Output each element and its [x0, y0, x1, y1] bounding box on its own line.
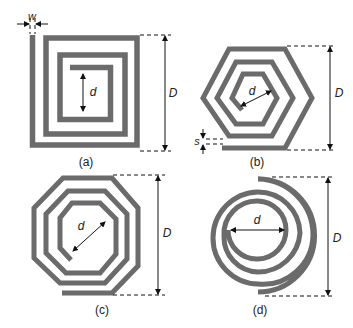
label-w: w: [28, 10, 37, 22]
caption-a: (a): [79, 155, 94, 169]
label-D: D: [333, 231, 342, 245]
label-D: D: [163, 226, 172, 240]
label-d: d: [90, 85, 97, 99]
panel-d-circular-spiral: d D (d): [213, 177, 342, 317]
caption-c: (c): [95, 303, 109, 317]
caption-b: (b): [250, 155, 265, 169]
label-D: D: [169, 86, 178, 100]
spiral-inductor-diagram: w d D (a) s d D (b) d: [0, 0, 353, 328]
panel-b-hexagonal-spiral: s d D (b): [194, 46, 343, 169]
label-d: d: [254, 213, 261, 227]
label-d: d: [249, 84, 256, 98]
label-D: D: [335, 86, 344, 100]
caption-d: (d): [253, 303, 268, 317]
label-d: d: [78, 219, 85, 233]
panel-a-square-spiral: w d D (a): [17, 10, 178, 169]
panel-c-octagonal-spiral: d D (c): [34, 175, 172, 317]
label-s: s: [194, 135, 200, 147]
